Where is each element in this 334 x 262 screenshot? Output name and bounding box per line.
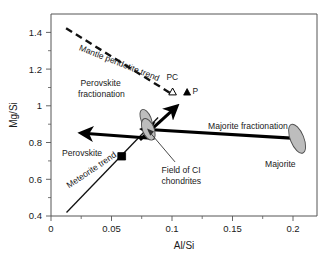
marker-p <box>184 89 191 96</box>
ci-chondrites-leader-line <box>152 135 175 162</box>
y-axis-tick-labels: 0.4 0.6 0.8 1 1.2 1.4 <box>29 27 42 222</box>
annotation-labels: Mantle peridotite trend Perovskite fract… <box>62 43 296 191</box>
trend-lines <box>66 28 173 212</box>
y-tick-label-3: 1 <box>37 100 42 111</box>
label-perovskite: Perovskite <box>62 148 102 158</box>
y-tick-label-5: 1.4 <box>29 27 42 38</box>
y-tick-label-1: 0.6 <box>29 174 42 185</box>
y-tick-label-2: 0.8 <box>29 137 42 148</box>
figure-container: 0.4 0.6 0.8 1 1.2 1.4 0 0.05 0.1 0.15 0.… <box>0 0 334 262</box>
marker-perovskite-endmember <box>118 153 126 160</box>
x-tick-label-4: 0.2 <box>286 223 299 234</box>
label-field-ci-line2: chondrites <box>162 176 202 186</box>
x-axis-title: Al/Si <box>174 240 195 251</box>
label-perovskite-fractionation-line1: Perovskite <box>81 78 121 88</box>
data-markers <box>118 88 191 160</box>
x-axis-tick-labels: 0 0.05 0.1 0.15 0.2 <box>48 223 299 234</box>
scatter-plot: 0.4 0.6 0.8 1 1.2 1.4 0 0.05 0.1 0.15 0.… <box>0 0 334 262</box>
x-tick-label-3: 0.15 <box>223 223 242 234</box>
label-field-ci-line1: Field of CI <box>162 165 201 175</box>
x-tick-label-1: 0.05 <box>102 223 121 234</box>
x-tick-label-2: 0.1 <box>165 223 178 234</box>
y-axis-title: Mg/Si <box>8 102 19 128</box>
label-majorite: Majorite <box>265 159 296 169</box>
y-tick-label-4: 1.2 <box>29 64 42 75</box>
x-axis-ticks <box>51 216 293 221</box>
label-majorite-fractionation: Majorite fractionation <box>208 121 288 131</box>
x-tick-label-0: 0 <box>48 223 53 234</box>
y-tick-label-0: 0.4 <box>29 210 42 221</box>
label-pc: PC <box>167 72 179 82</box>
y-axis-ticks <box>46 32 51 216</box>
label-p: P <box>193 86 199 96</box>
label-perovskite-fractionation-line2: fractionation <box>78 89 125 99</box>
